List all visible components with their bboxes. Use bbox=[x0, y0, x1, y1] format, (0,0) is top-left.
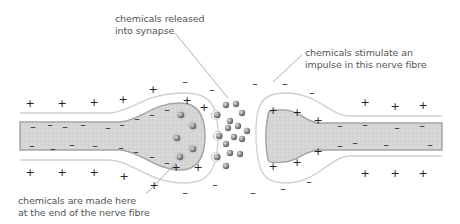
released-chemicals bbox=[223, 101, 250, 169]
svg-text:+: + bbox=[360, 167, 369, 180]
label-made-line2: at the end of the nerve fibre bbox=[18, 207, 150, 219]
svg-text:–: – bbox=[149, 108, 155, 121]
svg-text:–: – bbox=[92, 139, 98, 152]
label-chemicals-released: chemicals released into synapse bbox=[115, 13, 205, 37]
label-released-line2: into synapse bbox=[115, 25, 205, 37]
svg-text:–: – bbox=[337, 119, 343, 132]
svg-text:–: – bbox=[209, 83, 215, 96]
label-released-line1: chemicals released bbox=[115, 13, 205, 25]
svg-text:+: + bbox=[390, 100, 399, 113]
svg-text:+: + bbox=[199, 101, 208, 114]
svg-text:+: + bbox=[25, 166, 34, 179]
svg-text:+: + bbox=[292, 156, 301, 169]
svg-text:+: + bbox=[360, 96, 369, 109]
svg-text:–: – bbox=[119, 118, 125, 131]
svg-text:–: – bbox=[164, 156, 170, 169]
svg-text:–: – bbox=[164, 103, 170, 116]
svg-text:–: – bbox=[306, 175, 312, 188]
svg-text:–: – bbox=[50, 142, 56, 155]
svg-text:–: – bbox=[30, 120, 36, 133]
label-chemicals-stimulate: chemicals stimulate an impulse in this n… bbox=[305, 47, 427, 71]
synapse-diagram: ++++ +++ ++++ +++ +++ +++ +++ +++ ––––– … bbox=[0, 0, 460, 224]
svg-text:+: + bbox=[57, 97, 66, 110]
svg-text:+: + bbox=[118, 93, 127, 106]
svg-text:+: + bbox=[182, 94, 191, 107]
svg-text:–: – bbox=[337, 139, 343, 152]
svg-text:–: – bbox=[362, 118, 368, 131]
svg-text:–: – bbox=[182, 186, 188, 199]
svg-text:–: – bbox=[149, 150, 155, 163]
leader-released bbox=[175, 33, 228, 98]
svg-text:+: + bbox=[418, 99, 427, 112]
svg-text:+: + bbox=[292, 106, 301, 119]
fusing-vesicles bbox=[212, 111, 223, 162]
svg-text:–: – bbox=[69, 138, 75, 151]
diagram-canvas: ++++ +++ ++++ +++ +++ +++ +++ +++ ––––– … bbox=[0, 0, 460, 224]
svg-text:–: – bbox=[280, 182, 286, 195]
label-chemicals-made: chemicals are made here at the end of th… bbox=[18, 195, 150, 219]
svg-text:–: – bbox=[394, 121, 400, 134]
svg-text:–: – bbox=[419, 119, 425, 132]
svg-text:–: – bbox=[427, 138, 433, 151]
svg-text:–: – bbox=[212, 178, 218, 191]
svg-text:+: + bbox=[171, 161, 180, 174]
svg-text:–: – bbox=[282, 77, 288, 90]
svg-text:–: – bbox=[105, 121, 111, 134]
svg-text:–: – bbox=[29, 139, 35, 152]
svg-text:+: + bbox=[390, 167, 399, 180]
svg-text:–: – bbox=[80, 118, 86, 131]
svg-text:+: + bbox=[313, 145, 322, 158]
svg-text:+: + bbox=[268, 104, 277, 117]
svg-text:–: – bbox=[133, 145, 139, 158]
svg-text:–: – bbox=[118, 141, 124, 154]
svg-text:–: – bbox=[182, 75, 188, 88]
svg-text:+: + bbox=[57, 166, 66, 179]
label-made-line1: chemicals are made here bbox=[18, 195, 150, 207]
svg-text:–: – bbox=[47, 118, 53, 131]
svg-text:+: + bbox=[268, 160, 277, 173]
svg-text:+: + bbox=[119, 170, 128, 183]
label-stimulate-line1: chemicals stimulate an bbox=[305, 47, 427, 59]
svg-text:+: + bbox=[193, 161, 202, 174]
svg-text:+: + bbox=[148, 83, 157, 96]
svg-text:–: – bbox=[62, 120, 68, 133]
svg-text:–: – bbox=[383, 138, 389, 151]
svg-text:–: – bbox=[352, 136, 358, 149]
svg-text:–: – bbox=[250, 186, 256, 199]
label-stimulate-line2: impulse in this nerve fibre bbox=[305, 59, 427, 71]
svg-text:+: + bbox=[418, 167, 427, 180]
svg-text:+: + bbox=[313, 114, 322, 127]
svg-text:+: + bbox=[89, 96, 98, 109]
svg-text:–: – bbox=[252, 77, 258, 90]
svg-text:–: – bbox=[134, 112, 140, 125]
svg-text:+: + bbox=[149, 179, 158, 192]
svg-text:+: + bbox=[25, 97, 34, 110]
svg-text:+: + bbox=[89, 166, 98, 179]
svg-text:–: – bbox=[309, 86, 315, 99]
